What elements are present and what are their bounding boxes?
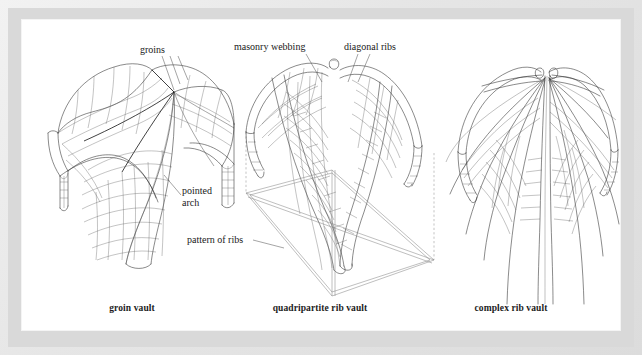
figure-quadripartite-rib-vault: masonry webbing diagonal ribs pattern of… [187, 41, 434, 296]
rib-plan-diagram [246, 170, 434, 296]
label-groins: groins [140, 44, 165, 55]
callout-pointed-arch: pointed arch [164, 175, 212, 208]
figure-complex-rib-vault [446, 67, 619, 304]
callout-masonry-webbing: masonry webbing [234, 41, 322, 82]
label-pointed-arch-line1: pointed [182, 185, 212, 196]
label-diagonal-ribs: diagonal ribs [344, 41, 396, 52]
caption-complex-rib-vault: complex rib vault [426, 303, 596, 313]
label-masonry-webbing: masonry webbing [234, 41, 305, 52]
label-pattern-of-ribs: pattern of ribs [187, 234, 243, 245]
caption-groin-vault: groin vault [52, 303, 212, 313]
keystone-boss [329, 59, 339, 69]
vault-diagram-svg: .ln{fill:none;stroke:#2b2b2b;stroke-widt… [22, 20, 620, 330]
boss-left [535, 68, 544, 78]
illustration-plate: .ln{fill:none;stroke:#2b2b2b;stroke-widt… [0, 0, 642, 355]
callout-diagonal-ribs: diagonal ribs [344, 41, 396, 82]
callout-groins: groins [140, 44, 188, 90]
quadripartite-shell [246, 59, 422, 274]
label-pointed-arch-line2: arch [182, 197, 199, 208]
caption-quadripartite-rib-vault: quadripartite rib vault [230, 303, 410, 313]
white-figure-panel: .ln{fill:none;stroke:#2b2b2b;stroke-widt… [22, 20, 620, 330]
callout-pattern-of-ribs: pattern of ribs [187, 234, 284, 248]
groin-vault-webbing [58, 66, 234, 260]
complex-webbing [460, 130, 619, 234]
complex-shell [446, 67, 619, 304]
